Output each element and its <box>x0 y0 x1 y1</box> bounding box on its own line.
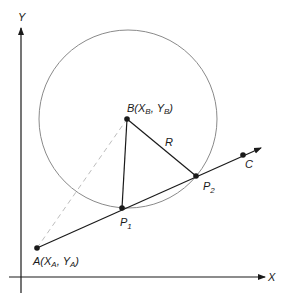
label-p1: P1 <box>120 216 132 231</box>
segment-b-p1 <box>122 119 127 208</box>
line-a-c <box>37 148 261 248</box>
point-b <box>124 116 130 122</box>
label-b: B(XB, YB) <box>127 102 173 116</box>
x-axis-label: X <box>267 271 276 283</box>
point-p1 <box>119 205 125 211</box>
y-axis-label: Y <box>18 11 26 23</box>
point-a <box>34 245 40 251</box>
point-c <box>240 152 246 158</box>
label-radius: R <box>165 136 173 148</box>
geometry-diagram: Y X B(XB, YB) R P1 P2 C A(XA, YA) <box>0 0 284 300</box>
label-a: A(XA, YA) <box>32 255 79 269</box>
label-p2: P2 <box>203 180 215 195</box>
point-p2 <box>193 173 199 179</box>
label-c: C <box>245 158 253 170</box>
segment-b-p2-radius <box>127 119 196 176</box>
dashed-line-a-b <box>37 119 127 248</box>
